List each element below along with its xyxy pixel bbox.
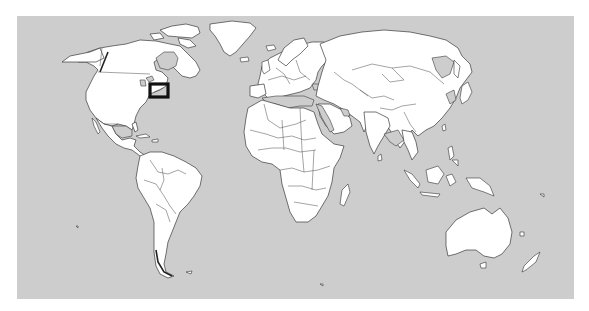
madagascar [340,184,350,206]
india [364,112,390,154]
greenland [210,21,256,56]
new-zealand [522,252,540,272]
new-guinea [466,178,494,196]
sumatra [404,170,420,188]
iceland [266,45,276,51]
world-map [17,16,574,299]
world-map-svg [17,16,574,299]
alaska [62,48,104,62]
south-america [136,152,202,278]
borneo [426,166,444,184]
australia [446,208,512,258]
